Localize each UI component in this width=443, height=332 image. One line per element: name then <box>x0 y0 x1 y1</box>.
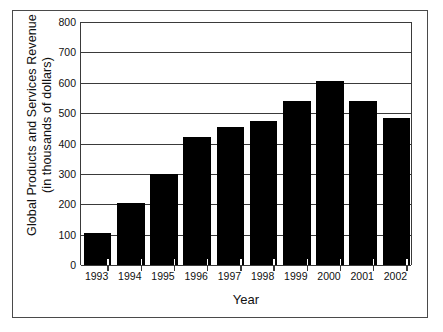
x-tick-label-2002: 2002 <box>375 270 415 282</box>
y-tick-label-0: 0 <box>36 259 76 271</box>
y-axis-title-line1: Global Products and Services Revenue <box>25 0 40 250</box>
plot-area <box>80 22 412 265</box>
y-axis-title: Global Products and Services Revenue (in… <box>25 0 55 250</box>
x-tick-outer-1994 <box>141 265 143 271</box>
y-tick-label-100: 100 <box>36 229 76 241</box>
x-tick-outer-1999 <box>307 265 309 271</box>
bar-1999 <box>283 101 311 265</box>
y-tick-label-800: 800 <box>36 16 76 28</box>
bar-1997 <box>217 127 245 265</box>
bar-1995 <box>150 174 178 265</box>
x-tick-outer-1998 <box>273 265 275 271</box>
y-tick-label-300: 300 <box>36 168 76 180</box>
y-tick-label-700: 700 <box>36 46 76 58</box>
x-tick-outer-1997 <box>240 265 242 271</box>
bar-2000 <box>316 81 344 265</box>
y-tick-label-200: 200 <box>36 198 76 210</box>
bar-chart-figure: Global Products and Services Revenue (in… <box>0 0 443 332</box>
x-tick-outer-2000 <box>340 265 342 271</box>
y-tick-label-400: 400 <box>36 138 76 150</box>
bar-1994 <box>117 203 145 265</box>
x-axis-title: Year <box>80 292 412 307</box>
x-tick-outer-1993 <box>107 265 109 271</box>
x-tick-outer-2002 <box>406 265 408 271</box>
x-tick-outer-2001 <box>373 265 375 271</box>
x-tick-outer-1995 <box>174 265 176 271</box>
bar-series <box>81 22 411 265</box>
x-tick-outer-1996 <box>207 265 209 271</box>
bar-2001 <box>349 101 377 265</box>
gridline-0 <box>81 265 411 266</box>
bar-2002 <box>383 118 411 265</box>
bar-1998 <box>250 121 278 265</box>
bar-1996 <box>183 137 211 265</box>
y-tick-label-600: 600 <box>36 77 76 89</box>
y-tick-label-500: 500 <box>36 107 76 119</box>
y-axis-title-line2: (in thousands of dollars) <box>40 0 55 250</box>
